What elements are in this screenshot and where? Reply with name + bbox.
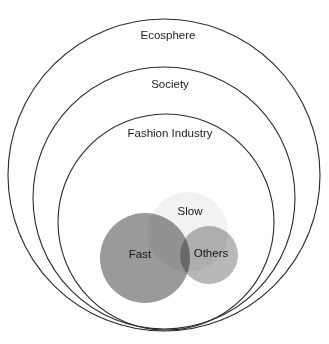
blob-label-others: Others: [194, 247, 229, 259]
ring-label-society: Society: [151, 78, 189, 90]
blob-label-fast: Fast: [129, 248, 152, 260]
ring-label-ecosphere: Ecosphere: [141, 29, 196, 41]
nested-circles-diagram: Ecosphere Society Fashion Industry Slow …: [0, 0, 329, 344]
ring-label-group: Ecosphere Society Fashion Industry: [127, 29, 212, 139]
diagram-canvas: Ecosphere Society Fashion Industry Slow …: [0, 0, 329, 344]
ring-label-fashion-industry: Fashion Industry: [127, 127, 212, 139]
blob-label-slow: Slow: [178, 205, 204, 217]
